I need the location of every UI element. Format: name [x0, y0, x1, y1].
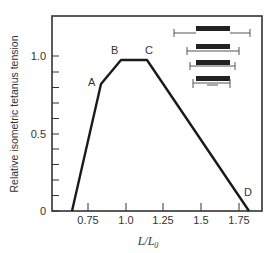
x-axis-ticks [88, 203, 239, 211]
point-label-d: D [244, 186, 252, 198]
y-axis-title: Relative isometric tetanus tension [8, 35, 20, 192]
x-tick-label-1-0: 1.0 [118, 214, 133, 226]
sarcomere-diagram-1 [174, 26, 250, 37]
x-axis-title: L/L0 [137, 234, 159, 250]
sarcomere-diagram-3 [190, 60, 235, 70]
sarcomere-diagrams [174, 26, 250, 88]
length-tension-chart: 0 0.5 1.0 0.75 1.0 1.25 1.5 1.75 Relativ… [0, 0, 275, 253]
point-label-c: C [145, 44, 153, 56]
point-label-a: A [88, 76, 96, 88]
sarcomere-diagram-4 [193, 76, 230, 88]
sarcomere-diagram-2 [187, 44, 239, 55]
x-tick-label-1-25: 1.25 [152, 214, 173, 226]
x-tick-label-1-5: 1.5 [193, 214, 208, 226]
x-tick-label-1-75: 1.75 [228, 214, 249, 226]
x-tick-label-0-75: 0.75 [77, 214, 98, 226]
y-tick-label-0-5: 0.5 [31, 128, 46, 140]
point-label-b: B [111, 44, 118, 56]
y-axis-ticks [52, 56, 59, 211]
y-tick-label-0: 0 [40, 205, 46, 217]
y-tick-label-1-0: 1.0 [31, 50, 46, 62]
